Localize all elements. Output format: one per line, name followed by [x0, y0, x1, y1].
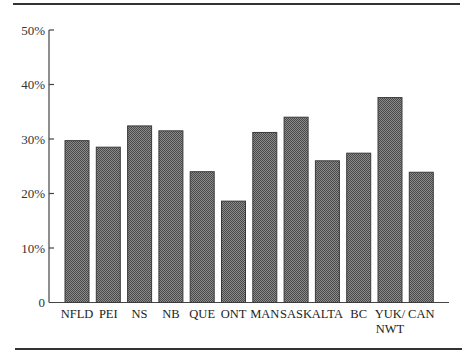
y-tick-label: 10%: [21, 241, 45, 256]
y-tick-label: 20%: [21, 186, 45, 201]
x-axis-labels: NFLDPEINSNBQUEONTMANSASKALTABCYUK/NWTCAN: [61, 307, 435, 336]
bar-nfld: [65, 141, 89, 303]
x-tick-label: MAN: [250, 307, 279, 321]
bar-yuknwt: [378, 98, 402, 303]
bar-alta: [315, 161, 339, 303]
bar-sask: [284, 117, 308, 302]
x-tick-label: SASK: [280, 307, 312, 321]
y-tick-label: 0: [39, 295, 46, 310]
x-tick-label: NWT: [376, 322, 405, 336]
x-tick-label: NB: [162, 307, 179, 321]
bar-bc: [347, 153, 371, 302]
bar-man: [253, 132, 277, 302]
bar-ns: [128, 126, 152, 303]
x-tick-label: PEI: [99, 307, 118, 321]
x-tick-label: QUE: [189, 307, 215, 321]
x-tick-label: BC: [350, 307, 367, 321]
y-tick-label: 40%: [21, 77, 45, 92]
x-tick-label: NFLD: [61, 307, 94, 321]
bar-ont: [222, 201, 246, 302]
bar-nb: [159, 131, 183, 303]
bar-chart: 010%20%30%40%50% NFLDPEINSNBQUEONTMANSAS…: [0, 0, 470, 351]
bar-can: [409, 172, 433, 302]
bar-pei: [96, 147, 120, 302]
x-tick-label: ONT: [221, 307, 247, 321]
x-tick-label: YUK/: [375, 307, 406, 321]
x-tick-label: NS: [132, 307, 148, 321]
y-tick-label: 30%: [21, 132, 45, 147]
y-tick-label: 50%: [21, 23, 45, 38]
bars: [65, 98, 433, 303]
x-tick-label: ALTA: [312, 307, 343, 321]
x-tick-label: CAN: [408, 307, 434, 321]
bar-que: [190, 172, 214, 303]
